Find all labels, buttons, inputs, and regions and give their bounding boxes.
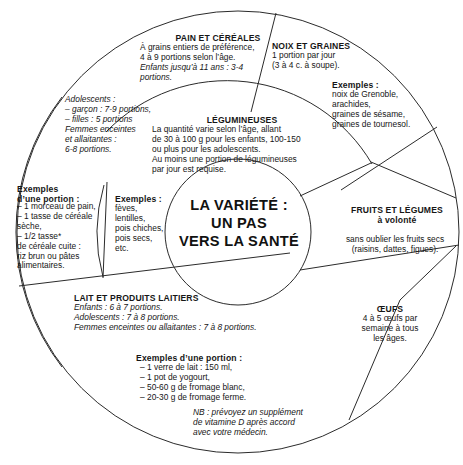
pain-cereales-examples-body: – 1 morceau de pain, – 1 tasse de céréal… (17, 202, 129, 271)
noix-graines-examples-body: noix de Grenoble, arachides, graines de … (332, 90, 454, 130)
legumineuses-body: La quantité varie selon l’âge, allant de… (152, 125, 338, 175)
fruits-legumes-heading: FRUITS ET LÉGUMES à volonté (336, 205, 458, 225)
center-title: LA VARIÉTÉ : UN PAS VERS LA SANTÉ (168, 197, 310, 250)
noix-graines-body: 1 portion par jour (3 à 4 c. à soupe). (272, 51, 382, 71)
oeufs-body: 4 à 5 œufs par semaine à tous les âges. (340, 314, 440, 344)
lait-produits-laitiers-body: Enfants : 6 à 7 portions. Adolescents : … (74, 303, 288, 333)
pain-cereales-body: À grains entiers de préférence, 4 à 9 po… (140, 43, 292, 63)
pain-cereales-children-note: Enfants jusqu’à 11 ans : 3-4 portions. (140, 63, 270, 83)
divider-noix-fruits-outer (371, 162, 456, 198)
lait-examples-body: – 1 verre de lait : 150 ml, – 1 pot de y… (140, 363, 300, 403)
vitamin-d-note: NB : prévoyez un supplément de vitamine … (193, 408, 353, 438)
divider-noix-example (341, 127, 437, 190)
fruits-legumes-body: sans oublier les fruits secs (raisins, d… (330, 235, 460, 255)
